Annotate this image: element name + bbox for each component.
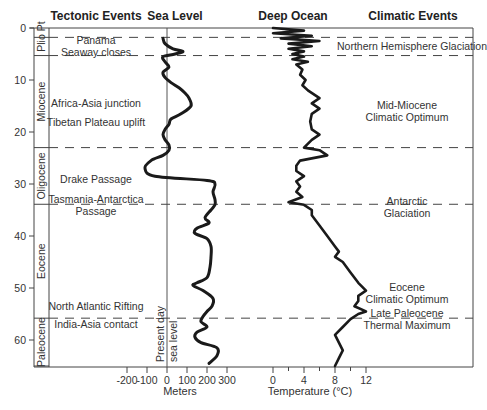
climatic-event-label: Mid-Miocene [377,99,437,111]
present-day-label: Present day [154,305,166,362]
epoch-label: Plio Pt [35,21,47,51]
age-axis: 0102030405060 [14,22,34,346]
tectonic-annotations: PanamaSeaway closesAfrica-Asia junctionT… [47,34,145,330]
climatic-event-label: Climatic Optimum [366,111,449,123]
sea-level-x-label: Meters [163,385,197,397]
climatic-annotations: Northern Hemisphere GlaciationMid-Miocen… [337,40,487,331]
tectonic-event-label: India-Asia contact [54,318,138,330]
meters-tick-label: -200 [116,374,137,386]
meters-tick-label: 200 [198,374,216,386]
climatic-event-label: Eocene [389,281,425,293]
epoch-label: Paleocene [35,317,47,367]
age-tick-label: 0 [20,22,26,34]
tectonic-event-label: Tasmania-Antarctica [48,193,143,205]
climatic-event-label: Late Paleocene [371,307,444,319]
epoch-label: Oligocene [35,152,47,199]
climatic-event-label: Thermal Maximum [364,319,451,331]
epoch-label: Miocene [35,82,47,122]
deep-ocean-temperature-curve [273,28,366,366]
temperature-tick-label: 12 [360,374,372,386]
tectonic-event-label: Tibetan Plateau uplift [47,116,145,128]
temperature-x-label: Temperature (°C) [268,385,352,397]
tectonic-event-label: Panama [76,34,115,46]
header-climatic-events: Climatic Events [368,9,458,23]
age-tick-label: 60 [14,334,26,346]
tectonic-event-label: Passage [76,205,117,217]
age-tick-label: 10 [14,74,26,86]
meters-tick-label: -100 [136,374,157,386]
age-tick-label: 30 [14,178,26,190]
header-tectonic-events: Tectonic Events [50,9,141,23]
sea-level-label: sea level [167,321,179,362]
epoch-column: Plio PtMioceneOligoceneEocenePaleocene [34,21,49,367]
age-tick-label: 20 [14,126,26,138]
header-sea-level: Sea Level [147,9,202,23]
climatic-event-label: Glaciation [384,207,431,219]
paleoclimate-chart: Tectonic Events Sea Level Deep Ocean Cli… [0,0,487,410]
meters-tick-label: 300 [218,374,236,386]
age-tick-label: 40 [14,230,26,242]
header-deep-ocean: Deep Ocean [258,9,327,23]
tectonic-event-label: Drake Passage [60,173,132,185]
tectonic-event-label: North Atlantic Rifting [48,300,143,312]
epoch-label: Eocene [35,243,47,279]
age-tick-label: 50 [14,282,26,294]
x-axes: -200-100010020030004812 [116,367,372,386]
tectonic-event-label: Seaway closes [61,46,131,58]
climatic-event-label: Climatic Optimum [366,293,449,305]
tectonic-event-label: Africa-Asia junction [51,97,141,109]
climatic-event-label: Northern Hemisphere Glaciation [337,40,487,52]
climatic-event-label: Antarctic [387,195,428,207]
